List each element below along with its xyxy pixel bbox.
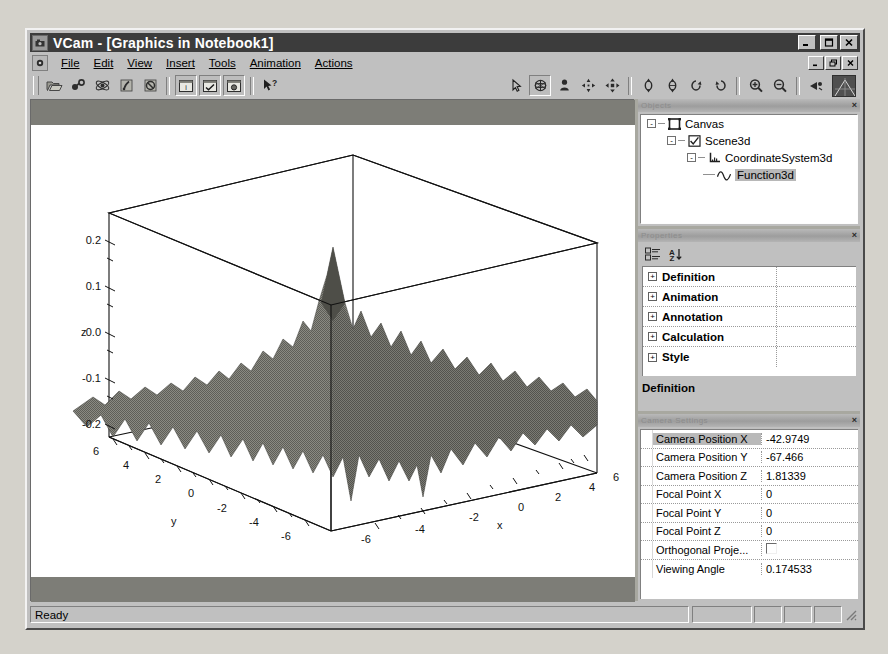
expander[interactable]: + — [643, 272, 662, 281]
alphabetic-sort-icon[interactable]: AZ — [667, 245, 687, 263]
tree-node-canvas[interactable]: - Canvas — [641, 115, 857, 132]
property-row-animation[interactable]: + Animation — [643, 287, 856, 307]
svg-text:-6: -6 — [281, 530, 291, 542]
svg-text:0.2: 0.2 — [86, 234, 101, 246]
camera-field-value[interactable]: 0 — [761, 488, 858, 500]
expander-icon[interactable]: - — [667, 136, 676, 145]
categorized-view-icon[interactable] — [643, 245, 663, 263]
light-icon[interactable] — [805, 75, 827, 96]
rotate-x-icon[interactable] — [637, 75, 659, 96]
close-icon[interactable]: × — [852, 416, 857, 425]
object-tree-title-bar[interactable]: Objects × — [638, 99, 860, 112]
checkbox-window-icon[interactable] — [199, 75, 221, 96]
camera-row-focal-x[interactable]: Focal Point X 0 — [641, 486, 858, 505]
toolbar-grip[interactable] — [33, 76, 39, 95]
move-all-icon[interactable] — [601, 75, 623, 96]
camera-grid[interactable]: Camera Position X -42.9749 Camera Positi… — [640, 429, 858, 599]
maximize-button[interactable] — [820, 35, 838, 50]
svg-text:-2: -2 — [217, 502, 227, 514]
mdi-restore-button[interactable] — [825, 56, 841, 70]
camera-field-value[interactable]: 0 — [761, 507, 858, 519]
camera-field-value[interactable]: 0 — [761, 525, 858, 537]
zoom-out-icon[interactable] — [769, 75, 791, 96]
pan-icon[interactable] — [577, 75, 599, 96]
property-value[interactable] — [776, 267, 856, 286]
camera-window-icon[interactable] — [223, 75, 245, 96]
menu-insert[interactable]: Insert — [159, 56, 202, 70]
property-row-annotation[interactable]: + Annotation — [643, 307, 856, 327]
property-value[interactable] — [776, 347, 856, 367]
link-icon[interactable] — [67, 75, 89, 96]
menu-animation[interactable]: Animation — [243, 56, 308, 70]
property-value[interactable] — [776, 327, 856, 346]
property-row-definition[interactable]: + Definition — [643, 267, 856, 287]
menu-tools[interactable]: Tools — [202, 56, 243, 70]
property-value[interactable] — [776, 307, 856, 326]
menu-file[interactable]: File — [54, 56, 87, 70]
svg-text:0: 0 — [188, 487, 194, 499]
tree-node-coordinatesystem3d[interactable]: - CoordinateSystem3d — [641, 149, 857, 166]
camera-row-viewing-angle[interactable]: Viewing Angle 0.174533 — [641, 560, 858, 579]
camera-field-value[interactable]: 1.81339 — [761, 470, 858, 482]
menu-edit-label: Edit — [94, 57, 114, 69]
circle-slash-icon[interactable] — [139, 75, 161, 96]
close-button[interactable] — [840, 35, 858, 50]
camera-row-orthogonal-projection[interactable]: Orthogonal Proje... — [641, 541, 858, 560]
plot-canvas[interactable]: 0.2 0.1 0.0 -0.1 -0.2 z — [31, 125, 635, 577]
view-preview[interactable] — [832, 75, 856, 97]
arrow-select-icon[interactable] — [505, 75, 527, 96]
row-gutter — [641, 467, 653, 485]
camera-row-focal-z[interactable]: Focal Point Z 0 — [641, 523, 858, 542]
mdi-minimize-button[interactable] — [808, 56, 824, 70]
property-value[interactable] — [776, 287, 856, 306]
resize-grip[interactable] — [844, 608, 858, 622]
rotate-scene-icon[interactable] — [529, 75, 551, 96]
camera-field-value[interactable] — [761, 543, 858, 556]
close-icon[interactable]: × — [852, 231, 857, 240]
camera-row-position-z[interactable]: Camera Position Z 1.81339 — [641, 467, 858, 486]
property-row-style[interactable]: + Style — [643, 347, 856, 367]
properties-grid[interactable]: + Definition + Animation + Annotation — [642, 266, 856, 376]
menu-actions[interactable]: Actions — [308, 56, 360, 70]
expander-icon[interactable]: - — [647, 119, 656, 128]
expander-icon[interactable]: - — [687, 153, 696, 162]
rotate-left-icon[interactable] — [685, 75, 707, 96]
expander[interactable]: + — [643, 312, 662, 321]
object-tree-body[interactable]: - Canvas - Scene3d — [640, 114, 858, 224]
properties-title-bar[interactable]: Properties × — [638, 229, 860, 242]
camera-icon[interactable] — [32, 35, 48, 51]
camera-row-focal-y[interactable]: Focal Point Y 0 — [641, 504, 858, 523]
object-move-icon[interactable] — [553, 75, 575, 96]
info-window-icon[interactable]: i — [175, 75, 197, 96]
zoom-in-icon[interactable] — [745, 75, 767, 96]
atom-icon[interactable] — [91, 75, 113, 96]
menu-view[interactable]: View — [120, 56, 159, 70]
open-folder-icon[interactable] — [43, 75, 65, 96]
help-arrow-icon[interactable]: ? — [259, 75, 281, 96]
camera-field-value[interactable]: -67.466 — [761, 451, 858, 463]
toolbar: i ? — [30, 73, 860, 98]
mdi-close-button[interactable] — [842, 56, 858, 70]
rotate-right-icon[interactable] — [709, 75, 731, 96]
camera-field-value[interactable]: -42.9749 — [761, 433, 858, 445]
status-pane-3 — [784, 606, 812, 623]
camera-field-value[interactable]: 0.174533 — [761, 563, 858, 575]
orthogonal-projection-checkbox[interactable] — [766, 543, 777, 554]
expander[interactable]: + — [643, 332, 662, 341]
minimize-button[interactable] — [798, 35, 816, 50]
pen-icon[interactable] — [115, 75, 137, 96]
tree-node-function3d[interactable]: Function3d — [641, 166, 857, 183]
document-icon[interactable] — [32, 55, 48, 71]
property-row-calculation[interactable]: + Calculation — [643, 327, 856, 347]
expander[interactable]: + — [643, 292, 662, 301]
camera-row-position-y[interactable]: Camera Position Y -67.466 — [641, 449, 858, 468]
graphics-document[interactable]: 0.2 0.1 0.0 -0.1 -0.2 z — [30, 99, 634, 601]
menu-edit[interactable]: Edit — [87, 56, 121, 70]
close-icon[interactable]: × — [852, 101, 857, 110]
tree-node-scene3d[interactable]: - Scene3d — [641, 132, 857, 149]
camera-row-position-x[interactable]: Camera Position X -42.9749 — [641, 430, 858, 449]
rotate-y-icon[interactable] — [661, 75, 683, 96]
expander[interactable]: + — [643, 353, 662, 362]
camera-title-bar[interactable]: Camera Settings × — [638, 414, 860, 427]
svg-text:0.0: 0.0 — [86, 326, 101, 338]
